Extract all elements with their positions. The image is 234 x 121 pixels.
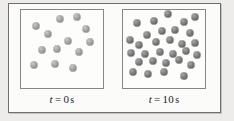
caption-variable-initial: t bbox=[50, 93, 53, 105]
particle bbox=[158, 28, 165, 35]
caption-final: t=10s bbox=[122, 92, 206, 107]
particle bbox=[135, 59, 142, 66]
particle bbox=[192, 39, 199, 46]
caption-unit-final: s bbox=[175, 94, 179, 105]
particle-box-initial bbox=[20, 9, 104, 89]
particle bbox=[136, 42, 143, 49]
particle bbox=[149, 58, 156, 65]
panels-container: t=0s t=10s bbox=[9, 4, 220, 112]
particle bbox=[180, 72, 187, 79]
particle bbox=[170, 50, 177, 57]
particle bbox=[188, 61, 195, 68]
diffusion-figure: t=0s t=10s bbox=[0, 0, 234, 121]
particle bbox=[175, 56, 182, 63]
particle bbox=[51, 60, 58, 67]
particle bbox=[180, 19, 187, 26]
particle bbox=[192, 14, 199, 21]
particle bbox=[133, 20, 140, 27]
particle bbox=[166, 36, 173, 43]
particle bbox=[183, 47, 190, 54]
particle bbox=[56, 15, 63, 22]
particle bbox=[162, 60, 169, 67]
particle bbox=[171, 26, 178, 33]
caption-unit-initial: s bbox=[70, 94, 74, 105]
particle bbox=[156, 49, 163, 56]
particle-box-final bbox=[122, 9, 206, 89]
caption-equals-final: = bbox=[154, 93, 161, 105]
particle bbox=[145, 70, 152, 77]
caption-variable-final: t bbox=[149, 93, 152, 105]
caption-initial: t=0s bbox=[20, 92, 104, 107]
particle bbox=[126, 36, 133, 43]
particle bbox=[70, 64, 77, 71]
particle bbox=[128, 49, 135, 56]
particle bbox=[142, 51, 149, 58]
particle bbox=[165, 10, 172, 17]
particle bbox=[151, 17, 158, 24]
particle bbox=[32, 22, 39, 29]
particle bbox=[45, 31, 52, 38]
particle bbox=[54, 46, 61, 53]
particle bbox=[76, 49, 83, 56]
particle bbox=[193, 52, 200, 59]
particle bbox=[143, 31, 150, 38]
particle-field-initial bbox=[21, 10, 103, 88]
particle bbox=[64, 38, 71, 45]
particle bbox=[152, 38, 159, 45]
figure-frame: t=0s t=10s bbox=[8, 3, 221, 113]
particle bbox=[39, 46, 46, 53]
particle bbox=[86, 38, 93, 45]
particle bbox=[187, 30, 194, 37]
particle bbox=[82, 25, 89, 32]
particle bbox=[73, 14, 80, 21]
particle bbox=[161, 69, 168, 76]
particle bbox=[129, 68, 136, 75]
caption-equals-initial: = bbox=[55, 93, 62, 105]
caption-value-initial: 0 bbox=[63, 93, 69, 105]
particle bbox=[31, 61, 38, 68]
particle-field-final bbox=[123, 10, 205, 88]
caption-value-final: 10 bbox=[163, 93, 175, 105]
